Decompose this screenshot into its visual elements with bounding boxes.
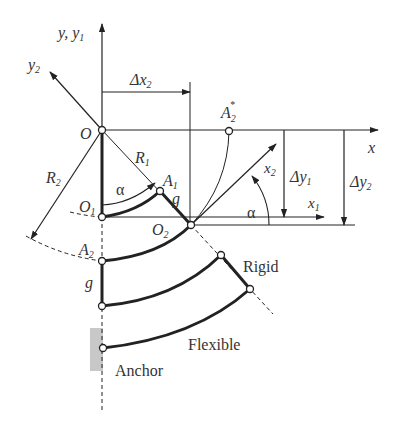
joint-o: [99, 127, 106, 134]
dx2-label: Δx2: [129, 71, 152, 90]
joint-o2: [188, 222, 195, 229]
g-label-upper: g: [172, 190, 180, 208]
r2-arrow: [31, 130, 102, 239]
joint-rigid-1: [218, 252, 225, 259]
point-a2star-label: A2*: [220, 99, 236, 124]
dy2-label: Δy2: [349, 173, 372, 192]
y2-axis-label: y2: [26, 56, 40, 75]
joint-a2: [99, 258, 106, 265]
x2-axis-label: x2: [263, 160, 276, 178]
dy1-label: Δy1: [289, 168, 312, 187]
r1-label: R1: [134, 149, 150, 168]
a2star-curve: [191, 131, 229, 225]
joint-o1: [99, 214, 106, 221]
y2-axis: [50, 72, 102, 130]
anchor-label: Anchor: [115, 362, 164, 379]
joint-anchor: [100, 345, 107, 352]
r2-label: R2: [45, 169, 61, 188]
x2-axis: [191, 144, 276, 225]
point-o1-label: O1: [79, 198, 96, 217]
point-a2-label: A2: [78, 241, 94, 260]
y-axis-label: y, y1: [56, 24, 84, 43]
x1-axis-label: x1: [307, 195, 320, 213]
joint-rigid-2: [247, 286, 254, 293]
alpha-label-left: α: [116, 181, 125, 198]
x-axis-label: x: [367, 139, 375, 156]
g-label-lower: g: [85, 274, 93, 292]
mechanism-diagram: y, y1 y2 x x1 x2 Δx2 Δy1 Δy2 O O1 O2 A1 …: [0, 0, 395, 437]
joint-g: [99, 303, 106, 310]
link-g-rigid1: [102, 255, 221, 306]
link-a2-o2: [102, 225, 191, 261]
rigid-label: Rigid: [243, 258, 279, 276]
joint-a2star: [226, 128, 233, 135]
point-o2-label: O2: [152, 221, 169, 240]
flexible-label: Flexible: [188, 336, 240, 353]
point-a1-label: A1: [162, 172, 178, 191]
point-o-label: O: [80, 125, 92, 142]
alpha-label-right: α: [247, 204, 256, 221]
